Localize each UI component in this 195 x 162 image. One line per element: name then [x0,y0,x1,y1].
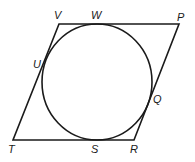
label-s: S [91,143,99,155]
label-v: V [54,9,63,21]
label-u: U [33,58,41,70]
label-w: W [91,9,103,21]
label-t: T [8,143,16,155]
label-p: P [177,11,185,23]
inscribed-circle [42,24,152,140]
geometry-diagram: V W P U Q T S R [0,0,195,162]
label-r: R [130,143,138,155]
label-q: Q [153,93,162,105]
parallelogram [13,24,179,140]
